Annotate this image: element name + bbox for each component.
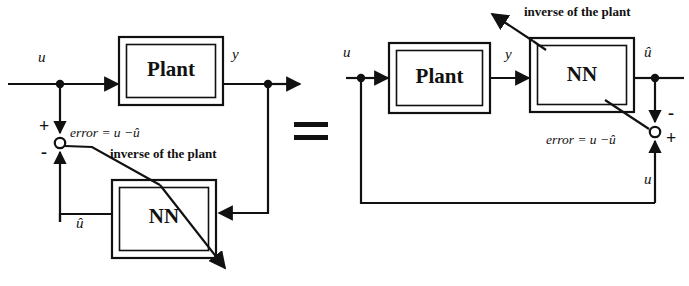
right-label-feedback-u: u xyxy=(644,172,652,187)
left-label-y: y xyxy=(232,47,239,62)
left-error-label: error = u −û xyxy=(70,126,140,140)
right-inverse-annotation: inverse of the plant xyxy=(524,5,631,18)
right-label-uhat: û xyxy=(644,45,652,60)
right-plant-label: Plant xyxy=(389,66,490,87)
left-nn-output-path xyxy=(60,214,112,222)
left-minus-sign: - xyxy=(41,143,47,161)
left-plant-label: Plant xyxy=(119,59,223,80)
left-label-uhat: û xyxy=(76,216,84,231)
right-diagram-group xyxy=(346,14,684,203)
right-minus-sign: - xyxy=(668,104,674,122)
right-summing-junction-circle xyxy=(650,127,660,137)
equals-sign-glyph xyxy=(294,122,328,140)
left-nn-label: NN xyxy=(112,206,216,227)
right-label-y: y xyxy=(505,47,512,62)
left-plus-sign: + xyxy=(39,117,49,135)
right-plus-sign: + xyxy=(666,129,676,147)
block-diagram-figure: u y û + - error = u −û inverse of the pl… xyxy=(0,0,689,286)
left-y-feedback-to-nn xyxy=(219,84,268,213)
left-label-u: u xyxy=(38,50,46,65)
left-inverse-annotation: inverse of the plant xyxy=(110,147,217,160)
right-label-u: u xyxy=(343,45,351,60)
left-summing-junction-circle xyxy=(55,138,65,148)
right-nn-label: NN xyxy=(530,64,634,85)
right-error-label: error = u −û xyxy=(546,133,616,147)
